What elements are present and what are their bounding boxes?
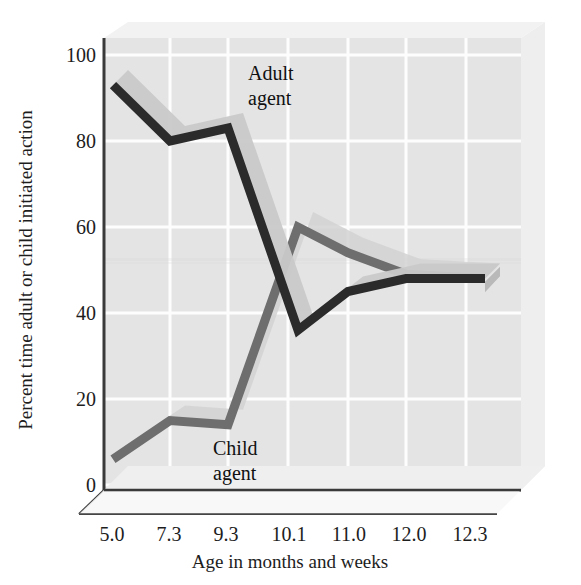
y-tick-label-40: 40 bbox=[76, 302, 96, 324]
y-tick-labels: 100 80 60 40 20 0 bbox=[66, 44, 96, 496]
chart-svg: 100 80 60 40 20 0 5.0 7.3 9.3 10.1 11.0 … bbox=[0, 0, 581, 585]
x-tick-label-10-1: 10.1 bbox=[272, 523, 307, 545]
x-tick-label-9-3: 9.3 bbox=[214, 523, 239, 545]
chart-figure: 100 80 60 40 20 0 5.0 7.3 9.3 10.1 11.0 … bbox=[0, 0, 581, 585]
child-agent-label-line2: agent bbox=[213, 462, 257, 485]
y-tick-label-80: 80 bbox=[76, 130, 96, 152]
floor-plinth bbox=[79, 466, 545, 514]
y-tick-label-100: 100 bbox=[66, 44, 96, 66]
x-axis-title: Age in months and weeks bbox=[192, 551, 388, 572]
adult-agent-label-line2: agent bbox=[248, 87, 292, 110]
x-tick-label-5-0: 5.0 bbox=[100, 523, 125, 545]
x-tick-labels: 5.0 7.3 9.3 10.1 11.0 12.0 12.3 bbox=[100, 523, 488, 545]
y-tick-label-20: 20 bbox=[76, 388, 96, 410]
x-tick-label-12-3: 12.3 bbox=[453, 523, 488, 545]
x-tick-label-7-3: 7.3 bbox=[157, 523, 182, 545]
y-tick-label-60: 60 bbox=[76, 216, 96, 238]
child-agent-label-line1: Child bbox=[213, 437, 257, 459]
adult-agent-label-line1: Adult bbox=[248, 62, 294, 84]
x-tick-label-11-0: 11.0 bbox=[332, 523, 366, 545]
x-tick-label-12-0: 12.0 bbox=[392, 523, 427, 545]
y-axis-title: Percent time adult or child initiated ac… bbox=[15, 110, 36, 430]
y-tick-label-0: 0 bbox=[86, 474, 96, 496]
